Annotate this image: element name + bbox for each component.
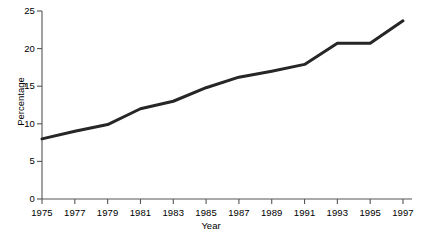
y-axis-ticks xyxy=(37,11,42,199)
x-axis-title: Year xyxy=(0,220,422,231)
y-axis-tick-label: 0 xyxy=(9,193,35,204)
y-axis-title: Percentage xyxy=(15,57,26,147)
line-chart: 0510152025 19751977197919811983198519871… xyxy=(0,0,422,239)
y-axis-tick-label: 20 xyxy=(9,43,35,54)
x-axis-ticks xyxy=(42,199,403,204)
data-series-line xyxy=(42,21,403,139)
y-axis-tick-label: 5 xyxy=(9,155,35,166)
x-axis-tick-label: 1997 xyxy=(383,207,422,218)
y-axis-tick-label: 25 xyxy=(9,5,35,16)
plot-area xyxy=(0,0,422,239)
